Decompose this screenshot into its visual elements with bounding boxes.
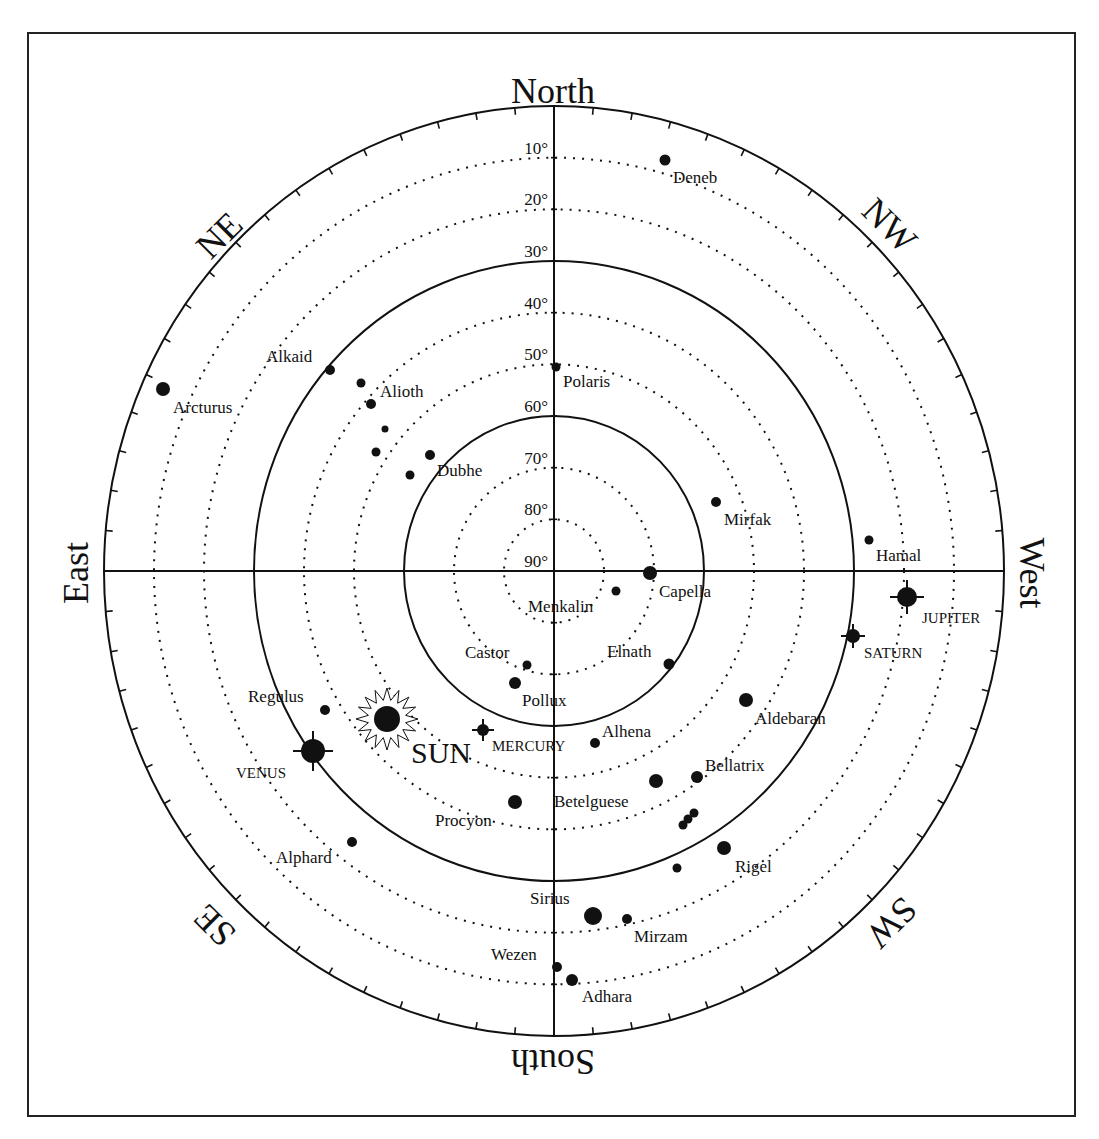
azimuth-tick — [669, 1013, 671, 1020]
azimuth-tick — [808, 190, 812, 196]
direction-label-south: South — [511, 1042, 595, 1082]
altitude-label-80: 80° — [524, 500, 548, 519]
azimuth-tick — [669, 122, 671, 129]
star-label: Alphard — [276, 848, 332, 867]
star-wezen: Wezen — [491, 945, 562, 972]
azimuth-tick — [970, 728, 977, 730]
star-unnamed — [372, 448, 381, 457]
azimuth-tick — [296, 190, 300, 196]
star-polaris: Polaris — [552, 363, 611, 392]
star-pollux: Pollux — [509, 677, 567, 710]
star-bellatrix: Bellatrix — [691, 756, 765, 783]
azimuth-tick — [106, 530, 113, 531]
azimuth-tick — [776, 168, 780, 174]
azimuth-tick — [631, 113, 632, 120]
altitude-label-10: 10° — [524, 139, 548, 158]
azimuth-tick — [938, 800, 944, 804]
azimuth-tick — [776, 968, 780, 974]
direction-label-nw: NW — [854, 190, 925, 261]
azimuth-tick — [706, 1001, 708, 1008]
azimuth-tick — [111, 651, 118, 652]
star-sirius: Sirius — [530, 889, 602, 925]
star-label: Mirfak — [724, 510, 772, 529]
azimuth-tick — [438, 1013, 440, 1020]
azimuth-tick — [741, 150, 744, 156]
star-dot-icon — [739, 693, 753, 707]
star-dot-icon — [622, 914, 632, 924]
azimuth-tick — [209, 272, 214, 276]
azimuth-tick — [400, 1001, 402, 1008]
star-dot-icon — [711, 497, 721, 507]
azimuth-tick — [164, 800, 170, 804]
azimuth-tick — [364, 986, 367, 992]
azimuth-tick — [146, 765, 152, 768]
planet-label: MERCURY — [492, 738, 566, 754]
direction-label-north: North — [511, 71, 595, 111]
star-unnamed — [357, 379, 366, 388]
azimuth-tick — [839, 922, 843, 927]
azimuth-tick — [265, 922, 269, 927]
star-elnath: Elnath — [607, 642, 675, 670]
sun-disc-icon — [374, 706, 400, 732]
direction-label-east: East — [56, 542, 96, 604]
star-label: Arcturus — [173, 398, 232, 417]
azimuth-tick — [329, 168, 333, 174]
azimuth-tick — [185, 304, 191, 308]
star-rigel: Rigel — [717, 841, 772, 876]
star-dot-icon — [347, 837, 357, 847]
star-label: Rigel — [735, 857, 772, 876]
azimuth-tick — [265, 215, 269, 220]
azimuth-tick — [990, 651, 997, 652]
star-dot-icon — [509, 677, 521, 689]
azimuth-tick — [400, 134, 402, 141]
star-label: Dubhe — [437, 461, 482, 480]
azimuth-tick — [296, 946, 300, 952]
star-label: Aldebaran — [755, 709, 826, 728]
star-dot-icon — [649, 774, 663, 788]
azimuth-tick — [185, 834, 191, 838]
azimuth-tick — [236, 895, 241, 900]
star-label: Menkalin — [528, 597, 594, 616]
star-unnamed — [690, 809, 699, 818]
star-dot-icon — [425, 450, 435, 460]
planet-disc-icon — [477, 724, 489, 736]
star-dot-icon — [584, 907, 602, 925]
direction-label-sw: SW — [858, 889, 924, 955]
star-mirzam: Mirzam — [622, 914, 688, 946]
azimuth-tick — [808, 946, 812, 952]
star-label: Alioth — [380, 382, 424, 401]
azimuth-tick — [329, 968, 333, 974]
azimuth-tick — [209, 865, 214, 869]
star-label: Wezen — [491, 945, 537, 964]
star-dot-icon — [357, 379, 366, 388]
star-label: Capella — [659, 582, 711, 601]
planet-label: VENUS — [236, 765, 286, 781]
star-dot-icon — [325, 365, 335, 375]
star-label: Castor — [465, 643, 510, 662]
star-dot-icon — [691, 771, 703, 783]
star-label: Regulus — [248, 687, 304, 706]
star-unnamed — [382, 426, 389, 433]
star-dot-icon — [590, 738, 600, 748]
star-dot-icon — [320, 705, 330, 715]
star-label: Hamal — [876, 546, 922, 565]
star-label: Procyon — [435, 811, 492, 830]
azimuth-tick — [955, 765, 961, 768]
star-dot-icon — [372, 448, 381, 457]
azimuth-tick — [593, 1027, 594, 1034]
azimuth-tick — [990, 490, 997, 491]
star-aldebaran: Aldebaran — [739, 693, 826, 728]
azimuth-tick — [119, 451, 126, 453]
star-label: Polaris — [563, 372, 610, 391]
azimuth-tick — [119, 690, 126, 692]
star-deneb: Deneb — [660, 155, 718, 188]
altitude-label-60: 60° — [524, 397, 548, 416]
azimuth-tick — [917, 304, 923, 308]
star-label: Elnath — [607, 642, 652, 661]
star-castor: Castor — [465, 643, 532, 670]
azimuth-tick — [839, 215, 843, 220]
planet-disc-icon — [846, 629, 860, 643]
star-adhara: Adhara — [566, 974, 632, 1006]
azimuth-tick — [164, 339, 170, 343]
sun-marker: SUN — [356, 688, 471, 769]
